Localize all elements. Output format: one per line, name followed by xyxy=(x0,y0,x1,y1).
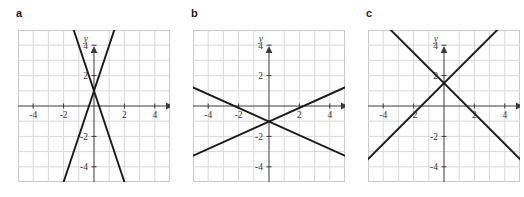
panel-a-label: a xyxy=(16,6,22,20)
x-tick-label: -4 xyxy=(204,110,212,120)
y-axis-label: y xyxy=(258,34,264,44)
y-tick-label: 2 xyxy=(258,71,263,81)
y-tick-label: -4 xyxy=(255,162,263,172)
x-tick-label: -4 xyxy=(379,110,387,120)
panel-c-label: c xyxy=(366,6,372,20)
x-tick-label: 2 xyxy=(122,110,127,120)
y-tick-label: -2 xyxy=(80,132,88,142)
panel-c-svg: -4 -2 2 4 4 2 -2 -4 x y xyxy=(368,30,520,182)
x-tick-label: -2 xyxy=(60,110,68,120)
x-tick-label: -4 xyxy=(29,110,37,120)
three-graph-figure: a xyxy=(0,0,524,197)
y-tick-label: -4 xyxy=(430,162,438,172)
panel-a: a xyxy=(0,0,174,197)
y-axis-label: y xyxy=(433,34,439,44)
y-tick-label: -2 xyxy=(255,132,263,142)
panel-b-label: b xyxy=(191,6,198,20)
panel-b-svg: -4 -2 2 4 4 2 -2 -4 x y xyxy=(193,30,345,182)
panel-a-svg: -4 -2 2 4 4 2 -2 -4 x y xyxy=(18,30,170,182)
y-axis-label: y xyxy=(83,34,89,44)
panel-b: b xyxy=(175,0,349,197)
panel-c-plot: -4 -2 2 4 4 2 -2 -4 x y xyxy=(368,30,520,182)
x-tick-label: 4 xyxy=(327,110,332,120)
y-tick-label: -4 xyxy=(80,162,88,172)
panel-b-plot: -4 -2 2 4 4 2 -2 -4 x y xyxy=(193,30,345,182)
x-tick-label: 2 xyxy=(297,110,302,120)
y-tick-label: -2 xyxy=(430,132,438,142)
x-tick-label: 4 xyxy=(152,110,157,120)
panel-a-plot: -4 -2 2 4 4 2 -2 -4 x y xyxy=(18,30,170,182)
x-tick-label: 4 xyxy=(502,110,507,120)
x-tick-label: -2 xyxy=(235,110,243,120)
panel-c: c xyxy=(350,0,524,197)
